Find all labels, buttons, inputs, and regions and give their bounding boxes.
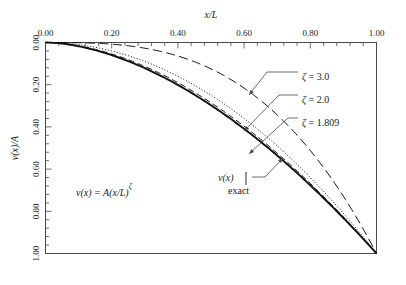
x-tick-label: 0.20 bbox=[104, 28, 120, 38]
zeta-2.0-label-leader bbox=[244, 95, 298, 131]
y-tick-label: 0.00 bbox=[31, 34, 41, 50]
x-tick-label: 1.00 bbox=[369, 28, 385, 38]
zeta-3.0-label-leader bbox=[249, 72, 298, 95]
x-tick-label: 0.80 bbox=[302, 28, 318, 38]
chart-canvas: x/L v(x)/A 0.000.200.400.600.801.000.000… bbox=[0, 0, 406, 285]
figure-container: x/L v(x)/A 0.000.200.400.600.801.000.000… bbox=[0, 0, 406, 285]
annotations-group: ζ = 3.0ζ = 2.0ζ = 1.809 bbox=[244, 71, 339, 177]
zeta-2.0-label: ζ = 2.0 bbox=[302, 94, 329, 106]
exact-label-leader bbox=[252, 158, 283, 177]
x-tick-label: 0.60 bbox=[236, 28, 252, 38]
axis-labels-group: 0.000.200.400.600.801.000.000.200.400.60… bbox=[31, 28, 385, 262]
y-tick-label: 0.20 bbox=[31, 76, 41, 92]
exact-series-label: v(x) exact bbox=[218, 172, 249, 196]
zeta-1.809-label-leader bbox=[249, 118, 298, 154]
y-axis-title: v(x)/A bbox=[9, 135, 21, 160]
exact-label-subscript: exact bbox=[228, 185, 249, 196]
zeta-1.809-label: ζ = 1.809 bbox=[302, 117, 339, 129]
zeta-3.0-label: ζ = 3.0 bbox=[302, 71, 329, 83]
y-tick-label: 0.40 bbox=[31, 119, 41, 135]
equation-annotation: v(x) = A(x/L)ζ bbox=[76, 181, 133, 199]
y-tick-label: 0.80 bbox=[31, 203, 41, 219]
y-tick-label: 1.00 bbox=[31, 245, 41, 261]
x-tick-label: 0.40 bbox=[170, 28, 186, 38]
x-axis-title: x/L bbox=[204, 9, 218, 20]
exact-label-vx: v(x) bbox=[218, 172, 234, 184]
y-tick-label: 0.60 bbox=[31, 161, 41, 177]
